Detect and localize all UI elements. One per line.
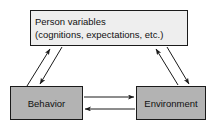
reciprocal-determinism-diagram: Person variables (cognitions, expectatio… <box>0 0 216 131</box>
edge-behavior-to-person <box>27 49 50 86</box>
node-behavior-label: Behavior <box>28 98 66 109</box>
node-person-variables-line-1: Person variables <box>35 15 106 28</box>
edge-person-to-environment <box>167 47 189 84</box>
node-person-variables: Person variables (cognitions, expectatio… <box>30 10 188 46</box>
edge-environment-to-person <box>156 49 178 85</box>
edge-person-to-behavior <box>40 47 62 84</box>
node-environment-label: Environment <box>144 98 197 109</box>
node-environment: Environment <box>136 86 206 120</box>
node-behavior: Behavior <box>10 86 83 120</box>
node-person-variables-line-2: (cognitions, expectations, etc.) <box>35 28 163 41</box>
